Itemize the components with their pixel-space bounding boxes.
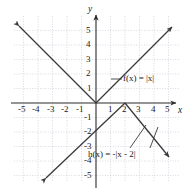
x-tick-3: 3 bbox=[136, 105, 141, 114]
y-tick-4: 4 bbox=[86, 40, 91, 49]
y-tick--1: -1 bbox=[84, 113, 92, 122]
coordinate-plane bbox=[0, 0, 187, 195]
y-tick--5: -5 bbox=[84, 171, 92, 180]
x-axis-name: x bbox=[178, 106, 182, 116]
function-label-f: f(x) = |x| bbox=[123, 74, 154, 83]
curve-f-absolute-value-right bbox=[96, 27, 172, 103]
y-tick-1: 1 bbox=[87, 84, 92, 93]
function-label-h: h(x) = -|x - 2| bbox=[88, 150, 136, 159]
leader-line-h-right bbox=[150, 127, 158, 148]
x-tick--1: -1 bbox=[76, 105, 84, 114]
x-tick--2: -2 bbox=[61, 105, 69, 114]
x-tick-4: 4 bbox=[151, 105, 156, 114]
x-tick-1: 1 bbox=[108, 105, 113, 114]
graph-figure: y x -5 -4 -3 -2 -1 1 2 3 4 5 5 4 3 2 1 -… bbox=[0, 0, 187, 195]
x-tick--3: -3 bbox=[47, 105, 55, 114]
leader-line-h-left bbox=[130, 125, 146, 148]
y-tick-5: 5 bbox=[86, 26, 91, 35]
y-tick--2: -2 bbox=[84, 127, 92, 136]
y-tick-2: 2 bbox=[86, 69, 91, 78]
x-tick--4: -4 bbox=[32, 105, 40, 114]
y-axis-name: y bbox=[88, 5, 92, 15]
x-tick--5: -5 bbox=[18, 105, 26, 114]
x-tick-5: 5 bbox=[165, 105, 170, 114]
curve-f-absolute-value bbox=[19, 26, 96, 103]
x-tick-2: 2 bbox=[122, 105, 127, 114]
y-tick-3: 3 bbox=[86, 55, 91, 64]
